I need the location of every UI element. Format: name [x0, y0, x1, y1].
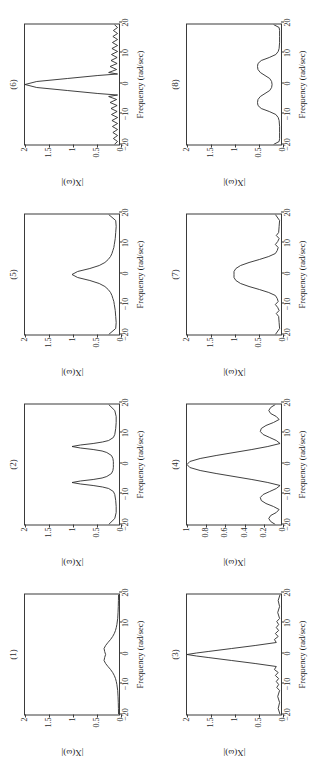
x-tick-label: −10 [284, 487, 292, 500]
x-tick-label: −20 [284, 328, 292, 341]
x-tick-label: −20 [122, 138, 130, 151]
x-tick-label: −20 [122, 518, 130, 531]
x-tick-label: −20 [284, 708, 292, 721]
x-tick-label: −10 [284, 297, 292, 310]
y-axis-title-text: |X(ω)| [223, 178, 245, 187]
y-tick-label: 0.5 [255, 147, 263, 157]
spectrum-curve [72, 404, 116, 524]
curve-svg [25, 594, 119, 714]
y-tick-label: 0.4 [241, 527, 249, 537]
y-tick-label: 0.5 [93, 337, 101, 347]
x-tick-label: 10 [284, 239, 292, 247]
figure-canvas: (1)00.511.52−20−1001020Frequency (rad/se… [0, 0, 324, 761]
y-tick-label: 1.5 [45, 337, 53, 347]
x-tick-label: −10 [284, 677, 292, 690]
y-tick-label: 2 [21, 717, 29, 721]
y-tick-label: 2 [183, 147, 191, 151]
y-axis-title-text: |X(ω)| [61, 178, 83, 187]
x-tick-label: 10 [284, 619, 292, 627]
y-tick-label: 1.5 [45, 717, 53, 727]
plot-panel-4: (4)00.20.40.60.81−20−1001020Frequency (r… [162, 381, 324, 571]
curve-svg [25, 214, 119, 334]
curve-svg [187, 594, 281, 714]
panel-number-label: (8) [170, 23, 180, 145]
x-tick-label: 10 [122, 239, 130, 247]
spectrum-curve [234, 214, 280, 334]
spectrum-curve [258, 24, 280, 144]
x-tick-label: −20 [122, 328, 130, 341]
y-tick-label: 2 [21, 527, 29, 531]
plot-panel-3: (3)00.511.52−20−1001020Frequency (rad/se… [162, 571, 324, 761]
plot-axes-box: 00.511.52−20−1001020 [24, 23, 120, 145]
x-tick-label: 20 [122, 398, 130, 406]
plot-axes-box: 00.511.52−20−1001020 [186, 593, 282, 715]
plot-panel-2: (2)00.511.52−20−1001020Frequency (rad/se… [0, 381, 162, 571]
panel-number-label: (7) [170, 213, 180, 335]
x-tick-label: −20 [122, 708, 130, 721]
x-tick-label: −20 [284, 138, 292, 151]
y-tick-label: 0.8 [202, 527, 210, 537]
panel-number-label: (6) [8, 23, 18, 145]
x-tick-label: 20 [122, 208, 130, 216]
x-tick-label: 10 [284, 49, 292, 57]
y-axis-title-text: |X(ω)| [223, 368, 245, 377]
y-tick-label: 1 [69, 337, 77, 341]
x-axis-title: Frequency (rad/sec) [136, 593, 145, 715]
y-tick-label: 1 [69, 527, 77, 531]
y-axis-title: |X(ω)| [186, 365, 282, 379]
x-tick-label: −10 [122, 677, 130, 690]
plot-axes-box: 00.511.52−20−1001020 [186, 23, 282, 145]
x-tick-label: 20 [284, 398, 292, 406]
plot-panel-7: (7)00.511.52−20−1001020Frequency (rad/se… [162, 191, 324, 381]
x-tick-label: −10 [122, 487, 130, 500]
x-tick-label: 0 [122, 271, 130, 275]
y-tick-label: 1 [231, 717, 239, 721]
spectrum-curve [25, 24, 118, 144]
curve-svg [187, 214, 281, 334]
y-axis-title: |X(ω)| [186, 175, 282, 189]
x-tick-label: 10 [284, 429, 292, 437]
y-tick-label: 1.5 [207, 337, 215, 347]
x-tick-label: 10 [122, 619, 130, 627]
x-tick-label: 0 [284, 461, 292, 465]
x-tick-label: 20 [122, 588, 130, 596]
y-axis-title: |X(ω)| [186, 555, 282, 569]
y-tick-label: 0.5 [255, 337, 263, 347]
x-tick-label: −20 [284, 518, 292, 531]
curve-svg [187, 404, 281, 524]
y-tick-label: 1 [183, 527, 191, 531]
plot-axes-box: 00.20.40.60.81−20−1001020 [186, 403, 282, 525]
y-tick-label: 2 [183, 717, 191, 721]
x-axis-title: Frequency (rad/sec) [298, 403, 307, 525]
x-axis-title: Frequency (rad/sec) [298, 593, 307, 715]
y-tick-label: 1.5 [45, 147, 53, 157]
y-tick-label: 1 [231, 147, 239, 151]
y-tick-label: 0.5 [93, 147, 101, 157]
y-tick-label: 1 [231, 337, 239, 341]
x-axis-title: Frequency (rad/sec) [298, 213, 307, 335]
x-tick-label: 0 [122, 651, 130, 655]
x-tick-label: 0 [284, 271, 292, 275]
plot-panel-6: (6)00.511.52−20−1001020Frequency (rad/se… [0, 1, 162, 191]
y-tick-label: 0.5 [93, 527, 101, 537]
spectrum-curve [104, 594, 118, 714]
x-tick-label: 20 [284, 588, 292, 596]
plot-panel-1: (1)00.511.52−20−1001020Frequency (rad/se… [0, 571, 162, 761]
y-axis-title-text: |X(ω)| [61, 748, 83, 757]
y-tick-label: 1.5 [207, 147, 215, 157]
y-tick-label: 0.2 [260, 527, 268, 537]
panel-number-label: (5) [8, 213, 18, 335]
x-tick-label: 0 [284, 81, 292, 85]
x-tick-label: −10 [284, 107, 292, 120]
x-tick-label: 20 [284, 208, 292, 216]
spectrum-curve [187, 594, 280, 714]
y-axis-title: |X(ω)| [24, 175, 120, 189]
plot-axes-box: 00.511.52−20−1001020 [186, 213, 282, 335]
x-axis-title: Frequency (rad/sec) [298, 23, 307, 145]
y-axis-title-text: |X(ω)| [61, 558, 83, 567]
spectrum-curve [72, 214, 116, 334]
spectrum-curve [187, 404, 280, 524]
x-tick-label: 10 [122, 429, 130, 437]
panel-number-label: (2) [8, 403, 18, 525]
panel-number-label: (1) [8, 593, 18, 715]
